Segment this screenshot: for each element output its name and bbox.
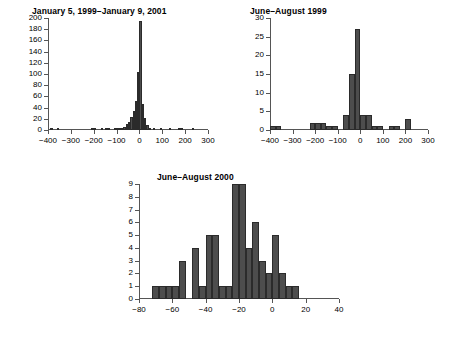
y-axis-tick — [135, 210, 139, 211]
y-axis-tick — [44, 96, 48, 97]
histogram-figure: January 5, 1999–January 9, 2001 02040608… — [0, 0, 450, 342]
plot-area: 020406080100120140160180200−400−300−200−… — [48, 18, 208, 130]
histogram-bar — [107, 128, 109, 130]
x-axis-tick — [405, 130, 406, 134]
y-axis-tick-label: 10 — [255, 89, 264, 97]
y-axis-tick-label: 6 — [129, 218, 133, 226]
y-axis-tick — [44, 108, 48, 109]
y-axis-tick-label: 180 — [29, 25, 42, 33]
y-axis-tick — [266, 111, 270, 112]
y-axis-tick — [135, 248, 139, 249]
x-axis-tick-label: 0 — [270, 306, 274, 314]
x-axis-tick — [428, 130, 429, 134]
y-axis-tick — [135, 261, 139, 262]
y-axis-tick-label: 30 — [255, 14, 264, 22]
histogram-bar — [272, 235, 279, 299]
x-axis-tick-label: 100 — [376, 137, 389, 145]
x-axis-tick — [162, 130, 163, 134]
histogram-bar — [405, 119, 411, 130]
x-axis-tick — [208, 130, 209, 134]
x-axis-tick-label: −200 — [85, 137, 103, 145]
x-axis-tick — [338, 130, 339, 134]
y-axis-tick — [135, 273, 139, 274]
x-axis-tick-label: −60 — [166, 306, 180, 314]
histogram-bar — [152, 286, 159, 299]
x-axis-tick-label: 20 — [301, 306, 310, 314]
histogram-bar — [239, 184, 246, 299]
y-axis-tick — [135, 197, 139, 198]
y-axis-tick — [266, 55, 270, 56]
histogram-bar — [226, 286, 233, 299]
y-axis-tick — [266, 74, 270, 75]
y-axis-tick — [44, 74, 48, 75]
histogram-bar — [206, 235, 213, 299]
y-axis-tick-label: 5 — [260, 107, 264, 115]
y-axis-tick — [266, 37, 270, 38]
chart-panel-june-august-2000: June–August 2000 0123456789−80−60−40−200… — [105, 172, 380, 340]
x-axis-tick-label: 300 — [421, 137, 434, 145]
y-axis-tick-label: 25 — [255, 33, 264, 41]
x-axis-tick — [272, 299, 273, 303]
x-axis-tick — [339, 299, 340, 303]
y-axis-tick-label: 0 — [129, 295, 133, 303]
x-axis-tick-label: 300 — [201, 137, 214, 145]
x-axis-tick-label: 0 — [358, 137, 362, 145]
panel-title: June–August 2000 — [157, 172, 234, 182]
y-axis-tick — [266, 93, 270, 94]
x-axis-tick — [383, 130, 384, 134]
x-axis-tick-label: −400 — [39, 137, 57, 145]
histogram-bar — [50, 128, 52, 130]
x-axis-tick — [206, 299, 207, 303]
histogram-bar — [181, 128, 183, 130]
y-axis-tick-label: 2 — [129, 269, 133, 277]
y-axis-tick-label: 40 — [33, 104, 42, 112]
x-axis-tick — [293, 130, 294, 134]
x-axis-tick — [360, 130, 361, 134]
x-axis-tick-label: 200 — [399, 137, 412, 145]
y-axis-tick-label: 7 — [129, 206, 133, 214]
x-axis-tick — [139, 130, 140, 134]
histogram-bar — [259, 261, 266, 299]
histogram-bar — [266, 273, 273, 299]
x-axis-tick — [239, 299, 240, 303]
x-axis-tick — [185, 130, 186, 134]
histogram-bar — [153, 128, 155, 130]
y-axis-tick-label: 0 — [260, 126, 264, 134]
y-axis-tick-label: 60 — [33, 92, 42, 100]
y-axis-tick-label: 3 — [129, 257, 133, 265]
x-axis-tick-label: 200 — [178, 137, 191, 145]
histogram-bar — [246, 248, 253, 299]
x-axis-tick — [315, 130, 316, 134]
y-axis-tick-label: 200 — [29, 14, 42, 22]
y-axis-tick-label: 80 — [33, 81, 42, 89]
histogram-bar — [192, 128, 194, 130]
histogram-bar — [101, 128, 103, 130]
x-axis-tick-label: −80 — [132, 306, 146, 314]
y-axis-tick-label: 9 — [129, 180, 133, 188]
y-axis-tick-label: 15 — [255, 70, 264, 78]
x-axis-tick-label: −100 — [108, 137, 126, 145]
x-axis-tick-label: −400 — [261, 137, 279, 145]
y-axis-tick-label: 120 — [29, 59, 42, 67]
y-axis-tick-label: 100 — [29, 70, 42, 78]
histogram-bar — [149, 128, 151, 130]
x-axis-tick — [270, 130, 271, 134]
x-axis-tick — [117, 130, 118, 134]
histogram-bar — [276, 126, 282, 130]
x-axis-tick — [48, 130, 49, 134]
y-axis-tick — [44, 85, 48, 86]
y-axis-tick-label: 20 — [255, 51, 264, 59]
plot-area: 0123456789−80−60−40−2002040 — [139, 184, 339, 299]
histogram-bar — [172, 286, 179, 299]
y-axis-tick-label: 5 — [129, 231, 133, 239]
x-axis-tick — [94, 130, 95, 134]
histogram-bar — [199, 286, 206, 299]
bars-group — [48, 18, 208, 130]
histogram-bar — [286, 286, 293, 299]
y-axis-tick — [44, 18, 48, 19]
bars-group — [270, 18, 428, 130]
x-axis-tick-label: 100 — [156, 137, 169, 145]
y-axis-tick-label: 140 — [29, 48, 42, 56]
plot-area: 051015202530−400−300−200−1000100200300 — [270, 18, 428, 130]
chart-panel-january-1999-2001: January 5, 1999–January 9, 2001 02040608… — [0, 6, 225, 166]
